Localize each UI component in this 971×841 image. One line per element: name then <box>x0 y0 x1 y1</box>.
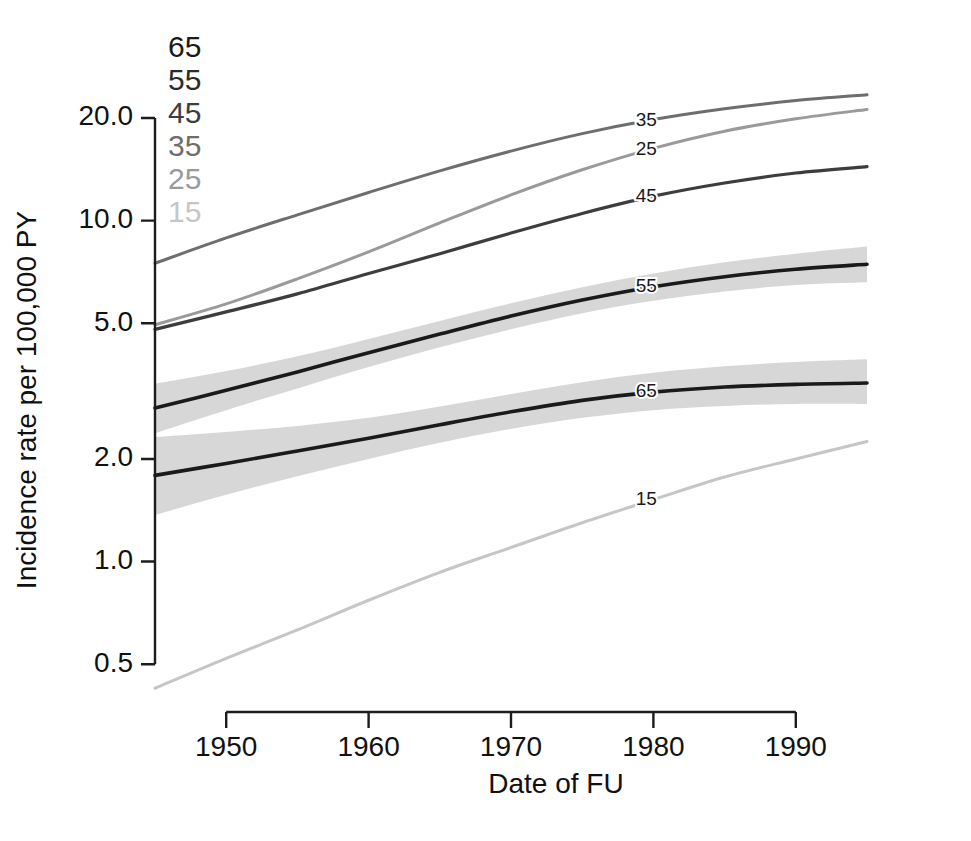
x-tick-label: 1960 <box>337 731 399 762</box>
y-axis-spine <box>141 118 155 664</box>
legend-item-25[interactable]: 25 <box>168 162 201 195</box>
curve-age-25 <box>155 109 867 324</box>
legend-item-55[interactable]: 55 <box>168 63 201 96</box>
curve-label-45: 45 <box>636 185 657 206</box>
y-tick-label: 1.0 <box>94 544 133 575</box>
legend-item-65[interactable]: 65 <box>168 30 201 63</box>
x-axis-spine <box>226 712 796 728</box>
y-tick-label: 10.0 <box>79 203 134 234</box>
x-tick-label: 1980 <box>622 731 684 762</box>
y-tick-label: 5.0 <box>94 306 133 337</box>
legend-item-35[interactable]: 35 <box>168 129 201 162</box>
x-tick-label: 1950 <box>195 731 257 762</box>
x-axis: 19501960197019801990 <box>195 712 827 762</box>
x-axis-title: Date of FU <box>488 768 623 799</box>
curve-inline-labels: 353525254545555565651515 <box>636 109 657 509</box>
y-tick-label: 0.5 <box>94 647 133 678</box>
chart-figure: 353525254545555565651515 0.51.02.05.010.… <box>0 0 971 841</box>
incidence-rate-line-chart: 353525254545555565651515 0.51.02.05.010.… <box>0 0 971 841</box>
x-tick-label: 1970 <box>480 731 542 762</box>
y-axis-title: Incidence rate per 100,000 PY <box>11 211 42 590</box>
curve-label-15: 15 <box>636 488 657 509</box>
curve-label-25: 25 <box>636 138 657 159</box>
curve-label-55: 55 <box>636 275 657 296</box>
y-tick-labels: 0.51.02.05.010.020.0 <box>79 100 134 677</box>
y-axis: 0.51.02.05.010.020.0 <box>79 100 156 677</box>
y-tick-label: 20.0 <box>79 100 134 131</box>
curve-label-65: 65 <box>636 380 657 401</box>
curve-label-35: 35 <box>636 109 657 130</box>
legend: 655545352515 <box>168 30 201 228</box>
x-tick-label: 1990 <box>765 731 827 762</box>
y-tick-label: 2.0 <box>94 441 133 472</box>
legend-item-45[interactable]: 45 <box>168 96 201 129</box>
legend-item-15[interactable]: 15 <box>168 195 201 228</box>
x-tick-labels: 19501960197019801990 <box>195 731 827 762</box>
